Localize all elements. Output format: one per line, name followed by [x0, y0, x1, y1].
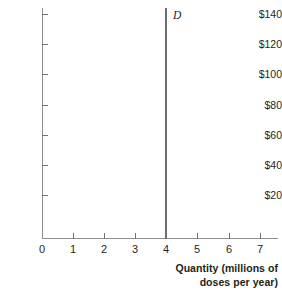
x-tick-7 — [260, 233, 261, 239]
y-tick-label-20: $20 — [244, 190, 282, 201]
demand-curve-label: D — [173, 9, 181, 21]
x-tick-label-2: 2 — [94, 243, 114, 255]
x-tick-3 — [135, 233, 136, 239]
demand-curve-chart: Price (dollars per dose) $140 $120 $100 … — [0, 0, 282, 293]
y-tick-20 — [42, 195, 48, 196]
x-axis-line — [42, 238, 278, 239]
y-tick-100 — [42, 74, 48, 75]
x-tick-label-4: 4 — [156, 243, 176, 255]
y-tick-label-80: $80 — [244, 100, 282, 111]
x-axis-label: Quantity (millions of doses per year) — [98, 261, 278, 289]
y-tick-120 — [42, 44, 48, 45]
x-tick-5 — [197, 233, 198, 239]
x-tick-label-5: 5 — [187, 243, 207, 255]
x-axis-label-line2: doses per year) — [98, 275, 278, 289]
x-tick-label-1: 1 — [63, 243, 83, 255]
x-tick-label-7: 7 — [250, 243, 270, 255]
x-tick-label-6: 6 — [219, 243, 239, 255]
y-tick-140 — [42, 14, 48, 15]
y-tick-label-100: $100 — [244, 69, 282, 80]
demand-curve-line — [165, 8, 167, 239]
x-tick-1 — [73, 233, 74, 239]
x-axis-label-line1: Quantity (millions of — [98, 261, 278, 275]
y-tick-40 — [42, 165, 48, 166]
y-tick-label-40: $40 — [244, 160, 282, 171]
x-tick-label-0: 0 — [32, 243, 52, 255]
x-tick-label-3: 3 — [125, 243, 145, 255]
x-tick-6 — [229, 233, 230, 239]
y-axis-line — [42, 8, 43, 239]
x-tick-2 — [104, 233, 105, 239]
y-tick-80 — [42, 105, 48, 106]
y-tick-60 — [42, 135, 48, 136]
y-tick-label-120: $120 — [244, 39, 282, 50]
y-tick-label-140: $140 — [244, 9, 282, 20]
y-tick-label-60: $60 — [244, 130, 282, 141]
